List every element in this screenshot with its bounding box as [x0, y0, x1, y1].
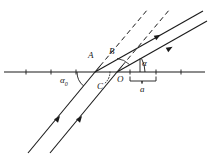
refracted-ray-2-arrowhead [166, 45, 174, 53]
refracted-ray-1-arrowhead [154, 33, 162, 41]
incident-ray-1-arrowhead [54, 114, 62, 122]
angle-arc-alpha-zero [77, 72, 84, 86]
refracted-ray-2 [117, 21, 207, 72]
dimension-label-a: a [140, 85, 145, 94]
horizontal-interface-line [4, 70, 205, 75]
ray-diagram-canvas [0, 0, 209, 157]
angle-label-alpha: α [142, 59, 147, 68]
construction-extension-1 [100, 9, 148, 66]
incident-ray-2-arrowhead [76, 114, 84, 122]
alpha-zero-subscript: 0 [65, 81, 68, 87]
refracted-rays [95, 11, 207, 72]
angle-label-alpha-zero: α0 [60, 76, 68, 87]
point-label-b: B [109, 47, 115, 56]
point-label-a: A [88, 51, 94, 60]
construction-extension-lines [100, 9, 170, 66]
ray-diagram-figure: A B C O α0 α a [0, 0, 209, 157]
point-label-o: O [117, 75, 124, 84]
incident-rays [28, 66, 122, 153]
dimension-brace-a [130, 77, 156, 84]
point-label-c: C [97, 82, 103, 91]
brace-path [130, 77, 156, 84]
refracted-ray-1 [95, 11, 203, 72]
